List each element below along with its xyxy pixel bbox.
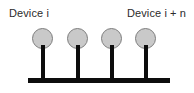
device-node-1 bbox=[32, 28, 55, 81]
device-stem bbox=[41, 45, 45, 81]
device-node-4 bbox=[135, 28, 158, 81]
device-node-2 bbox=[67, 28, 90, 81]
device-array-diagram: Device i Device i + n bbox=[0, 0, 194, 93]
device-stem bbox=[110, 45, 114, 81]
base-rail bbox=[28, 78, 170, 83]
device-stem bbox=[144, 45, 148, 81]
device-stem bbox=[76, 45, 80, 81]
device-label-left: Device i bbox=[9, 7, 49, 19]
device-label-right: Device i + n bbox=[127, 7, 186, 19]
device-node-3 bbox=[101, 28, 124, 81]
